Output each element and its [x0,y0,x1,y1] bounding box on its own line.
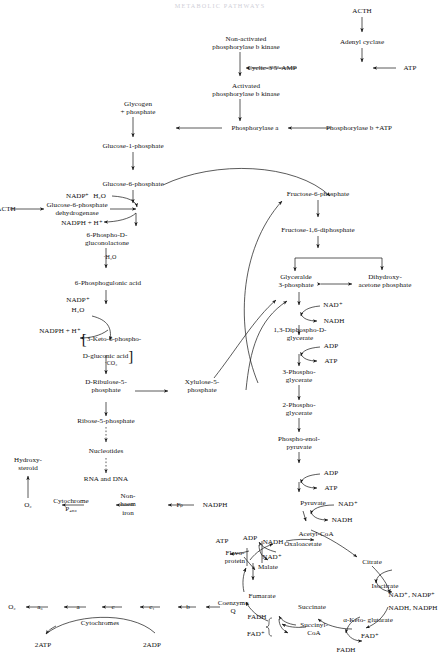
node-nad-2: NAD⁺ [338,500,358,508]
node-cytochrome-a: a [76,603,79,611]
node-fumarate: Fumarate [248,592,275,600]
page-header-faint: METABOLIC PATHWAYS [175,2,266,10]
node-2adp: 2ADP [143,641,161,649]
node-phosphorylase-b-atp: Phosphorylase b +ATP [326,124,392,132]
pathway-diagram-canvas: METABOLIC PATHWAYS ACTH Adenyl cyclase A… [0,0,441,652]
node-fadh-ring: FADH [337,646,356,652]
node-atp-1: ATP [325,357,338,365]
node-hydroxy-steroid: Hydroxy- steroid [14,456,42,473]
node-nadp-h2o: NADP⁺ H₂O [66,192,106,200]
node-glycogen: Glycogen + phosphate [120,100,155,117]
node-adenyl-cyclase: Adenyl cyclase [340,38,384,46]
node-nadph-h: NADPH + H⁺ [61,219,103,227]
node-pyruvate: Pyruvate [300,499,326,507]
node-nadh-1: NADH [324,317,345,325]
node-alpha-keto-glutarate: α-Keto- glutarate [343,616,393,624]
node-acth-left: ACTH [0,205,16,213]
node-fructose-16-diphosphate: Fructose-1,6-diphosphate [281,226,355,234]
label-co2: ·CO₂ [105,360,118,367]
node-ribulose-5-phosphate: D-Ribulose-5- phosphate [85,378,127,395]
node-nucleotides: Nucleotides [89,447,123,455]
label-cytochromes: Cytochromes [81,619,119,627]
node-flavoprotein: Flavo- protein [225,549,245,566]
node-acetyl-coa: Acetyl-CoA [298,530,333,538]
node-cytochrome-a3: a₃ [37,603,43,611]
node-ribose-5-phosphate: Ribose-5-phosphate [77,417,135,425]
node-phosphogluconic-acid: 6-Phosphogulonic acid [75,279,141,287]
node-non-activated-kinase: Non-activated phosphorylase b kinase [212,35,279,52]
node-cyclic-amp: Cyclic-3′5′-AMP [247,64,297,72]
node-phosphorylase-a: Phosphorylase a [231,124,278,132]
node-nadh-3: NADH [263,538,284,546]
node-nadh-nadph: NADH, NADPH [388,604,437,612]
node-acth-top: ACTH [352,7,372,15]
node-malate: Malate [258,563,278,571]
node-phosphoenolpyruvate: Phospho-enol- pyruvate [278,435,320,452]
node-non-haem-iron: Non- haem iron [120,492,136,517]
node-nadp-2: NADP⁺ [66,296,90,304]
node-cytochrome-c1: c₁ [149,603,155,611]
node-2-phosphoglycerate: 2-Phospho- glycerate [282,401,315,418]
node-o2-upper: O₂ [24,501,32,509]
node-adp-3: ADP [243,534,257,542]
node-g6p-dehydrogenase: Glucose-6-phosphate dehydrogenase [46,201,107,218]
bracket-right: ] [128,348,133,364]
node-fructose-6-phosphate: Fructose-6-phosphate [287,190,349,198]
label-h2o-step: ·H₂O [104,254,117,261]
node-cytochrome-p450: Cytochrome P₄₅₀ [53,497,89,514]
node-cytochrome-b: b [186,603,190,611]
node-succinyl-coa: Succinyl- CoA [300,621,328,638]
node-nadh-2: NADH [332,516,353,524]
node-xylulose-5-phosphate: Xylulose-5- phosphate [185,378,219,395]
node-activated-kinase: Activated phosphorylase b kinase [212,82,279,99]
node-citrate: Citrate [362,558,382,566]
node-oxaloacetate: Oxaloacetate [284,540,322,548]
node-dihydroxyacetone-phosphate: Dihydroxy- acetone phosphate [358,273,411,290]
node-adp-1: ADP [324,342,338,350]
node-coenzyme-q: Coenzyme Q [218,599,249,616]
node-cytochrome-c: c [111,603,114,611]
node-nad-3: NAD⁺ [262,553,282,561]
node-isocitrate: Isocitrate [372,582,399,590]
node-3-phosphoglycerate: 3-Phospho- glycerate [282,368,315,385]
node-fad-ring: FAD⁺ [361,632,379,640]
node-fadh-b: FADH [248,613,267,621]
node-rna-dna: RNA and DNA [84,475,128,483]
node-succinate: Succinate [298,603,326,611]
node-2atp: 2ATP [35,641,51,649]
node-nad-nadp: NAD⁺, NADP⁺ [389,591,436,599]
node-fad-b: FAD⁺ [247,630,265,638]
node-nad-1: NAD⁺ [323,301,343,309]
node-fp: Fₚ [176,501,183,509]
node-glucose-6-phosphate: Glucose-6-phosphate [102,180,163,188]
node-atp-3: ATP [216,537,229,545]
node-13-diphosphoglycerate: 1,3-Diphospho-D- glycerate [273,326,326,343]
node-adp-2: ADP [324,469,338,477]
node-h2o-2: H₂O [72,306,85,314]
node-gluconolactone: 6-Phospho-D- gluconolactone [85,231,129,248]
node-atp-2: ATP [325,484,338,492]
node-atp-top: ATP [404,64,417,72]
node-nadph-etc: NADPH [203,501,228,509]
node-o2-lower: O₂ [8,603,16,611]
node-glyceraldehyde-3-phosphate: Glyceralde 3-phosphate [278,273,313,290]
node-glucose-1-phosphate: Glucose-1-phosphate [102,142,163,150]
